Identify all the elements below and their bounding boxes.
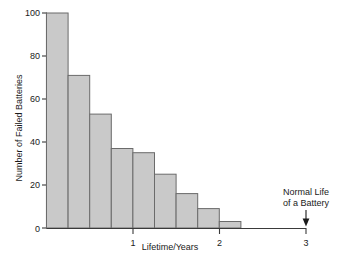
bar-bin-7 — [176, 194, 198, 228]
annotation-line-2: of a Battery — [283, 198, 330, 208]
y-tick-label-80: 80 — [30, 51, 40, 61]
bar-bin-4 — [111, 149, 133, 229]
y-tick-label-20: 20 — [30, 180, 40, 190]
x-tick-label-3: 3 — [303, 238, 308, 248]
bar-bin-2 — [68, 75, 90, 228]
y-tick-label-40: 40 — [30, 137, 40, 147]
annotation-line-1: Normal Life — [283, 187, 329, 197]
bar-bin-3 — [90, 114, 112, 228]
y-tick-label-60: 60 — [30, 94, 40, 104]
bar-bin-1 — [47, 13, 69, 228]
x-tick-label-2: 2 — [217, 238, 222, 248]
x-axis-title: Lifetime/Years — [142, 242, 199, 252]
bar-bin-8 — [198, 209, 220, 228]
bar-bin-6 — [155, 174, 177, 228]
bar-bin-9 — [219, 222, 241, 229]
battery-lifetime-histogram: Number of Failed Batteries 100 80 60 40 … — [0, 0, 345, 263]
bar-bin-5 — [133, 153, 155, 228]
y-tick-label-0: 0 — [35, 224, 40, 234]
y-tick-label-100: 100 — [25, 8, 40, 18]
chart-svg: Number of Failed Batteries 100 80 60 40 … — [0, 0, 345, 263]
y-axis-title: Number of Failed Batteries — [14, 74, 24, 182]
x-tick-label-1: 1 — [130, 238, 135, 248]
